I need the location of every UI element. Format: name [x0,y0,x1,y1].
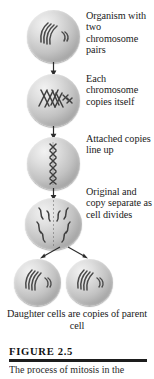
cell-daughter-right [66,259,113,306]
cell-stage-2 [27,74,80,127]
figure-caption-block: FIGURE 2.5 The process of mitosis in the [9,346,147,374]
label-stage-2: Each chromosome copies itself [86,73,154,107]
cell-stage-4 [25,198,82,250]
caption-rule [9,359,147,362]
aligned-chromosomes-icon [27,137,80,190]
figure-caption-text: The process of mitosis in the [9,364,147,374]
label-stage-1: Organism with two chromosome pairs [86,10,154,56]
cell-stage-1 [27,10,80,63]
cell-daughter-left [14,259,61,306]
label-stage-4: Original and copy separate as cell divid… [86,186,154,220]
label-stage-3: Attached copies line up [86,133,154,156]
chromosome-pair-icon [27,10,80,63]
separating-chromosomes-icon [25,198,82,250]
chromosome-pair-icon [14,259,61,306]
duplicated-chromosomes-icon [27,74,80,127]
figure-number: FIGURE 2.5 [9,346,147,357]
cell-stage-3 [27,137,80,190]
chromosome-pair-icon [66,259,113,306]
label-daughter-cells: Daughter cells are copies of parent cell [0,308,154,331]
mitosis-figure: Organism with two chromosome pairs Each … [0,0,154,379]
